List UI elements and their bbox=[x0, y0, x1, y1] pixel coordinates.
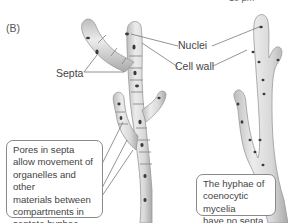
callout-line: allow movement of bbox=[13, 156, 97, 168]
callout-line: materials between bbox=[13, 194, 97, 206]
callout-line: septate hyphae. bbox=[13, 218, 97, 223]
callout-line: compartments in bbox=[13, 206, 97, 218]
scale-bar-label: 10 μm bbox=[229, 0, 254, 3]
callout-line: have no septa. bbox=[203, 215, 270, 223]
septate-callout: Pores in septa allow movement of organel… bbox=[6, 140, 103, 218]
panel-label: (B) bbox=[6, 22, 20, 34]
nuclei-label: Nuclei bbox=[178, 40, 207, 51]
coenocytic-callout: The hyphae of coenocytic mycelia have no… bbox=[196, 174, 276, 216]
septa-label: Septa bbox=[56, 68, 83, 79]
callout-line: coenocytic mycelia bbox=[203, 190, 270, 215]
callout-line: Pores in septa bbox=[13, 144, 97, 156]
callout-line: organelles and other bbox=[13, 169, 97, 194]
callout-line: The hyphae of bbox=[203, 178, 270, 190]
cell-wall-label: Cell wall bbox=[175, 61, 214, 72]
